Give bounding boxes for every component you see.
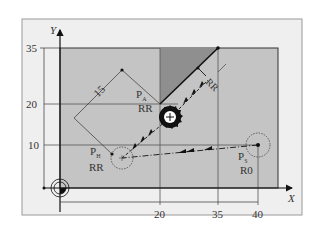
contour-diagram: Y X 35 20 10 20 35 40 15 RR bbox=[0, 0, 320, 244]
y-tick-label-35: 35 bbox=[26, 42, 38, 54]
y-tick-label-20: 20 bbox=[26, 98, 38, 110]
x-axis-label: X bbox=[287, 192, 296, 204]
contour-end-point bbox=[216, 46, 220, 50]
offset-point bbox=[197, 67, 200, 70]
dim-end-point bbox=[120, 68, 123, 71]
y-tick-label-10: 10 bbox=[28, 139, 40, 151]
svg-text:R0: R0 bbox=[240, 164, 253, 176]
x-tick-label-40: 40 bbox=[252, 208, 264, 220]
x-tick-label-35: 35 bbox=[212, 208, 224, 220]
svg-text:RR: RR bbox=[89, 161, 104, 173]
point-ph-marker bbox=[110, 152, 113, 155]
svg-text:RR: RR bbox=[138, 102, 153, 114]
x-tick-label-20: 20 bbox=[154, 208, 166, 220]
